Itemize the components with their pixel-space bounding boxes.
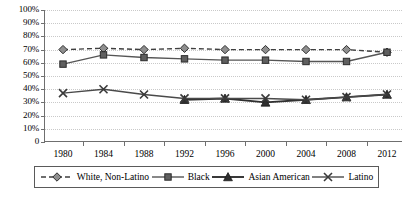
x-tick-mark: [164, 142, 165, 146]
x-tick-label: 2004: [297, 149, 316, 159]
y-tick-label: 50%: [0, 71, 39, 80]
square-marker: [141, 54, 147, 60]
square-marker: [343, 58, 349, 64]
y-tick-label: 60%: [0, 58, 39, 67]
legend-item-latino[interactable]: Latino: [311, 171, 373, 183]
square-marker: [164, 174, 170, 180]
legend-item-asian-american[interactable]: Asian American: [211, 171, 309, 183]
y-tick-label: 80%: [0, 31, 39, 40]
legend-label: Black: [188, 172, 210, 182]
legend-label: Latino: [348, 172, 373, 182]
y-tick-label: 10%: [0, 124, 39, 133]
x-tick-mark: [245, 142, 246, 146]
square-icon: [151, 171, 185, 183]
legend-label: White, Non-Latino: [77, 172, 149, 182]
diamond-marker: [261, 45, 269, 53]
diamond-marker: [302, 45, 310, 53]
x-tick-mark: [326, 142, 327, 146]
x-tick-label: 1988: [135, 149, 154, 159]
y-tick-label: 30%: [0, 97, 39, 106]
y-tick-label: 100%: [0, 5, 39, 14]
legend-item-black[interactable]: Black: [151, 171, 210, 183]
x-tick-mark: [367, 142, 368, 146]
legend-item-white-non-latino[interactable]: White, Non-Latino: [40, 171, 149, 183]
diamond-marker: [53, 173, 61, 181]
cross-icon: [311, 171, 345, 183]
triangle-icon: [211, 171, 245, 183]
square-marker: [181, 56, 187, 62]
chart-legend: White, Non-LatinoBlackAsian AmericanLati…: [34, 166, 379, 188]
y-tick-label: 40%: [0, 84, 39, 93]
square-marker: [262, 57, 268, 63]
x-tick-label: 1980: [54, 149, 73, 159]
x-tick-label: 2008: [337, 149, 356, 159]
x-tick-label: 2000: [256, 149, 275, 159]
diamond-marker: [140, 45, 148, 53]
x-tick-mark: [286, 142, 287, 146]
y-tick-mark: [41, 142, 45, 143]
diamond-icon: [40, 171, 74, 183]
x-tick-mark: [124, 142, 125, 146]
x-tick-label: 2012: [378, 149, 397, 159]
square-marker: [100, 52, 106, 58]
square-marker: [222, 57, 228, 63]
x-tick-mark: [205, 142, 206, 146]
plot-area: 010%20%30%40%50%60%70%80%90%100% 1980198…: [44, 10, 402, 142]
x-tick-label: 1992: [175, 149, 194, 159]
series-layer: [45, 10, 403, 142]
y-tick-label: 20%: [0, 111, 39, 120]
x-tick-label: 1984: [94, 149, 113, 159]
line-chart: 010%20%30%40%50%60%70%80%90%100% 1980198…: [0, 0, 413, 197]
x-tick-mark: [83, 142, 84, 146]
diamond-marker: [180, 44, 188, 52]
y-tick-label: 70%: [0, 45, 39, 54]
y-tick-label: 0: [0, 137, 39, 146]
diamond-marker: [342, 45, 350, 53]
square-marker: [60, 61, 66, 67]
legend-label: Asian American: [248, 172, 309, 182]
square-marker: [303, 58, 309, 64]
x-tick-label: 1996: [216, 149, 235, 159]
diamond-marker: [221, 45, 229, 53]
y-tick-label: 90%: [0, 18, 39, 27]
diamond-marker: [59, 45, 67, 53]
square-marker: [384, 49, 390, 55]
